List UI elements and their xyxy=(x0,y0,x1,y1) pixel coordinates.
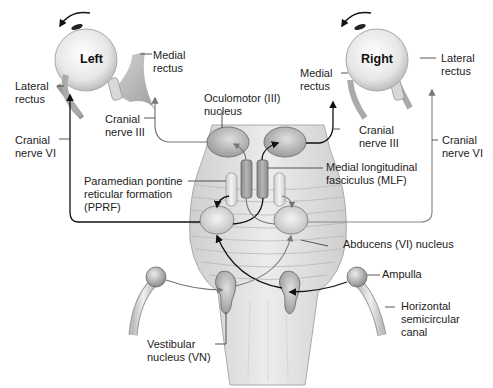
label-right-lateral-rectus: Lateral rectus xyxy=(441,52,475,78)
left-oculomotor-nucleus xyxy=(207,127,249,157)
right-mlf-column xyxy=(257,160,268,198)
label-right-cranial-nerve-vi: Cranial nerve VI xyxy=(442,134,483,160)
right-abducens-nucleus xyxy=(274,206,308,234)
label-pprf: Paramedian pontine reticular formation (… xyxy=(84,175,182,214)
label-left-medial-rectus: Medial rectus xyxy=(153,49,185,75)
label-left-cranial-nerve-iii: Cranial nerve III xyxy=(105,113,145,139)
label-abducens-nucleus: Abducens (VI) nucleus xyxy=(343,238,454,251)
right-ampulla xyxy=(347,267,367,287)
left-mlf-column xyxy=(241,160,252,198)
label-left-cranial-nerve-vi: Cranial nerve VI xyxy=(15,134,56,160)
left-eye-title: Left xyxy=(80,52,103,66)
label-left-lateral-rectus: Lateral rectus xyxy=(15,80,49,106)
left-ampulla xyxy=(146,267,166,287)
label-horizontal-semicircular-canal: Horizontal semicircular canal xyxy=(401,300,460,339)
label-right-cranial-nerve-iii: Cranial nerve III xyxy=(359,124,399,150)
label-right-medial-rectus: Medial rectus xyxy=(300,67,332,93)
label-ampulla: Ampulla xyxy=(382,268,422,281)
right-eye-title: Right xyxy=(361,52,393,66)
right-pprf-column xyxy=(274,173,285,206)
right-oculomotor-nucleus xyxy=(264,127,306,157)
label-mlf: Medial longitudinal fasciculus (MLF) xyxy=(326,161,417,187)
label-vestibular-nucleus: Vestibular nucleus (VN) xyxy=(147,338,211,364)
left-cn-iii-pathway xyxy=(155,98,207,142)
left-pprf-column xyxy=(226,173,237,206)
label-oculomotor-nucleus: Oculomotor (III) nucleus xyxy=(204,92,280,118)
left-abducens-nucleus xyxy=(200,206,234,234)
